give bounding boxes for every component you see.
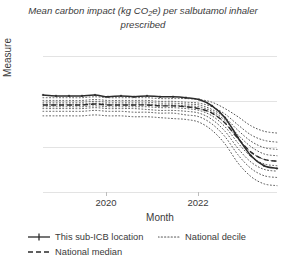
legend-swatch-dotted [158,232,180,242]
x-axis-label: Month [43,212,277,223]
y-axis-label: Measure [2,0,13,118]
x-tick-mark-2020 [106,192,107,196]
chart-legend: This sub-ICB location National decile Na… [28,229,280,259]
x-tick-mark-2022 [198,192,199,196]
series-svg [43,56,277,192]
chart-title: Mean carbon impact (kg CO2e) per salbuta… [14,4,272,31]
legend-item-sub-icb-location[interactable]: This sub-ICB location [28,232,158,242]
chart-title-subscript: 2 [148,10,152,17]
legend-swatch-dashed [28,247,50,257]
legend-item-national-median[interactable]: National median [28,247,158,257]
chart-title-prefix: Mean carbon impact (kg CO [28,5,148,16]
legend-label-sub-icb-location: This sub-ICB location [55,232,143,242]
gridline-15 [43,192,277,193]
national-decile-lines [43,97,277,186]
x-tick-label-2020: 2020 [76,197,136,208]
legend-item-national-decile[interactable]: National decile [158,232,246,242]
legend-swatch-solid-marker [28,232,50,242]
legend-label-national-decile: National decile [185,232,246,242]
x-tick-label-2022: 2022 [168,197,228,208]
legend-label-national-median: National median [55,247,122,257]
chart-container: Mean carbon impact (kg CO2e) per salbuta… [0,0,285,271]
plot-area [43,56,277,192]
